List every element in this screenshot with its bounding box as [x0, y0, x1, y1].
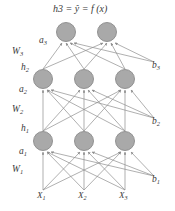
bias-b1-label: b1	[152, 175, 160, 185]
edges-w2	[43, 90, 125, 131]
bias-b2-label: b2	[152, 117, 160, 127]
node-out-2	[98, 23, 117, 42]
output-expression-label: h3 = ŷ = f (x)	[53, 4, 107, 14]
activation-a2-label: a2	[19, 85, 27, 95]
layer-hidden-2-nodes	[34, 70, 135, 89]
layer-output-nodes	[57, 23, 117, 42]
edges-bias2	[51, 90, 154, 118]
hidden-h2-label: h2	[21, 63, 29, 73]
node-h1-2	[75, 132, 94, 151]
node-h2-1	[34, 70, 53, 89]
node-h2-3	[116, 70, 135, 89]
input-x1-label: X1	[37, 191, 46, 200]
hidden-h1-label: h1	[21, 124, 29, 134]
edges-w1	[43, 152, 125, 190]
edges-w3	[43, 43, 125, 69]
node-h2-2	[75, 70, 94, 89]
bias-b3-label: b3	[152, 61, 160, 71]
weight-w3-label: W3	[12, 47, 23, 57]
activation-a3-label: a3	[39, 36, 47, 46]
node-h1-3	[116, 132, 135, 151]
node-h1-1	[34, 132, 53, 151]
weight-w2-label: W2	[12, 105, 23, 115]
input-x3-label: X3	[119, 191, 128, 200]
node-out-1	[57, 23, 76, 42]
neural-network-diagram: h3 = ŷ = f (x) a3 W3 h2 a2 W2 h1 a1 W1 b…	[0, 0, 175, 211]
layer-hidden-1-nodes	[34, 132, 135, 151]
network-graphic	[0, 0, 175, 211]
input-x2-label: X2	[78, 191, 87, 200]
edges-bias3	[74, 43, 154, 62]
activation-a1-label: a1	[19, 147, 27, 157]
weight-w1-label: W1	[12, 165, 23, 175]
